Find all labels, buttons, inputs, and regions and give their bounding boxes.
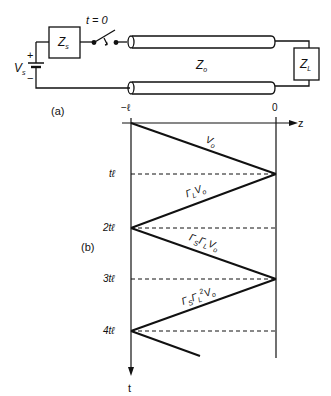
battery-icon (28, 63, 44, 67)
wave-reflect-1 (131, 174, 276, 228)
t-tick-2: 2tℓ (103, 222, 115, 234)
z-axis-label: z (298, 117, 304, 129)
wave-reflect-4 (131, 331, 200, 356)
circuit-schematic (28, 27, 319, 94)
t-tick-4: 4tℓ (103, 325, 115, 337)
upper-conductor (128, 36, 275, 48)
gamma-l-sub: L (197, 295, 203, 303)
z-tick-zero: 0 (272, 102, 278, 114)
load-impedance-sub: L (307, 65, 311, 72)
t-axis-arrow-icon (128, 367, 134, 376)
line-impedance-sub: o (203, 66, 207, 73)
t-axis-label: t (128, 382, 131, 394)
lower-conductor (128, 82, 275, 94)
source-voltage-symbol: V (14, 61, 22, 75)
panel-b-label: (b) (81, 241, 94, 253)
source-plus-label: + (27, 49, 33, 61)
panel-a-label: (a) (51, 105, 64, 117)
line-impedance-label: Zo (196, 59, 207, 76)
load-wire-top (275, 41, 309, 48)
load-impedance-label: ZL (300, 58, 311, 75)
switch-time-label: t = 0 (86, 14, 108, 26)
switch-time-text: t = 0 (86, 14, 108, 26)
switch-icon (92, 30, 118, 45)
z-tick-minus-l: −ℓ (121, 102, 130, 114)
diagram-canvas (0, 0, 331, 396)
t-tick-1: tℓ (109, 168, 115, 180)
source-voltage-sub: s (22, 69, 26, 76)
load-wire-bottom (275, 80, 309, 86)
source-impedance-label: Zs (58, 36, 69, 53)
return-wire (36, 67, 130, 88)
z-axis-arrow-icon (289, 120, 298, 126)
source-minus-label: − (27, 72, 33, 84)
t-tick-3: 3tℓ (103, 273, 115, 285)
source-impedance-sub: s (65, 43, 69, 50)
source-voltage-label: Vs (14, 62, 26, 79)
